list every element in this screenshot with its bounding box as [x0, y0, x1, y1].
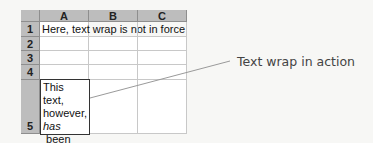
wrapped-line-3: has been	[43, 120, 87, 143]
italic-word: has	[43, 120, 61, 132]
wrapped-line-2: however,	[43, 107, 87, 120]
annotation-label: Text wrap in action	[237, 54, 355, 69]
wrapped-line-3-rest: been	[43, 133, 71, 143]
wrapped-line-1: This text,	[43, 81, 87, 107]
cell-a5-wrapped[interactable]: This text, however, has been wrapped	[40, 79, 90, 135]
